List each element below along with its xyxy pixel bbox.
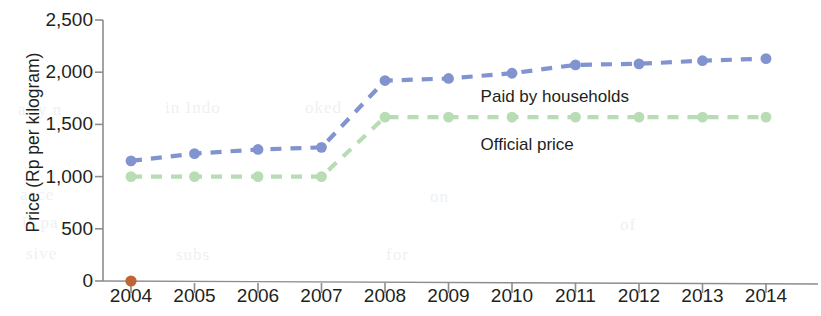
data-point-paid-by-households-2005 xyxy=(189,148,200,159)
data-point-paid-by-households-2006 xyxy=(253,144,264,155)
data-point-official-price-2004 xyxy=(126,171,137,182)
data-point-paid-by-households-2011 xyxy=(570,59,581,70)
data-point-official-price-2008 xyxy=(380,112,391,123)
origin-marker xyxy=(125,275,136,286)
chart-figure: ally n in Indo oked acce is pa sive subs… xyxy=(0,0,821,316)
data-point-paid-by-households-2004 xyxy=(126,156,137,167)
data-point-paid-by-households-2007 xyxy=(316,142,327,153)
data-point-official-price-2014 xyxy=(761,112,772,123)
data-point-official-price-2013 xyxy=(697,112,708,123)
data-point-paid-by-households-2014 xyxy=(761,53,772,64)
series-label-paid-by-households: Paid by households xyxy=(481,87,629,107)
data-point-official-price-2011 xyxy=(570,112,581,123)
data-point-official-price-2005 xyxy=(189,171,200,182)
data-point-official-price-2009 xyxy=(443,112,454,123)
plot-area xyxy=(0,0,821,316)
data-point-official-price-2007 xyxy=(316,171,327,182)
data-point-paid-by-households-2009 xyxy=(443,73,454,84)
data-point-official-price-2010 xyxy=(507,112,518,123)
data-point-paid-by-households-2013 xyxy=(697,55,708,66)
series-line-official-price xyxy=(131,117,766,177)
data-point-paid-by-households-2012 xyxy=(634,58,645,69)
data-point-official-price-2006 xyxy=(253,171,264,182)
series-label-official-price: Official price xyxy=(481,135,574,155)
x-axis-line xyxy=(103,281,818,284)
data-point-paid-by-households-2008 xyxy=(380,75,391,86)
data-point-paid-by-households-2010 xyxy=(507,68,518,79)
data-point-official-price-2012 xyxy=(634,112,645,123)
